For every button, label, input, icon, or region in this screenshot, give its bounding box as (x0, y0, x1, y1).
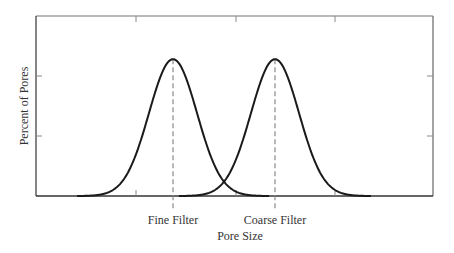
x-axis-label: Pore Size (217, 229, 263, 244)
axis-ticks (36, 16, 433, 196)
chart-frame (36, 16, 433, 196)
chart-plot-area (0, 0, 454, 253)
fine-filter-annotation: Fine Filter (148, 213, 198, 228)
y-axis-label: Percent of Pores (17, 67, 32, 146)
coarse-filter-annotation: Coarse Filter (244, 213, 306, 228)
distribution-curves (77, 59, 371, 196)
